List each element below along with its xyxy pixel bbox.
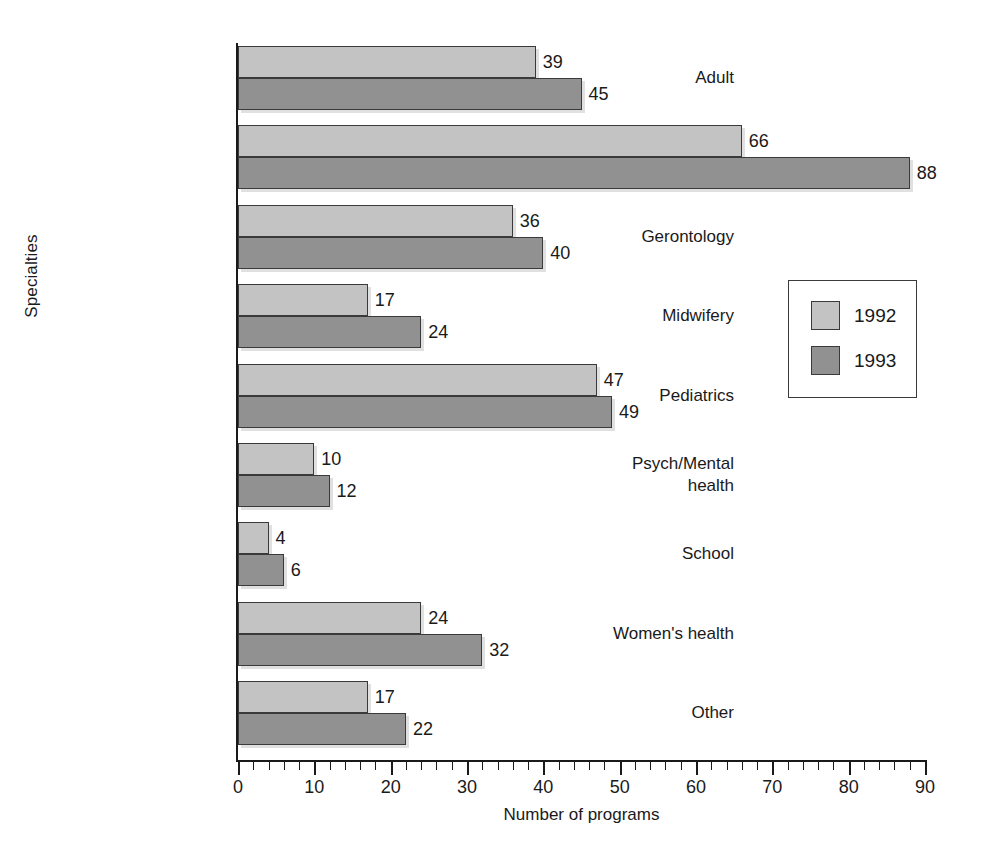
bar-value-label: 66 xyxy=(749,132,769,150)
bar-value-label: 39 xyxy=(543,53,563,71)
legend-entry-1992: 1992 xyxy=(811,301,896,330)
x-tick-minor xyxy=(452,762,453,770)
x-tick-major xyxy=(238,762,240,775)
bar-1992 xyxy=(238,364,597,396)
x-tick-minor xyxy=(482,762,483,770)
bar-group-1993: 32 xyxy=(238,634,938,666)
x-tick-major xyxy=(391,762,393,775)
bar-group-1993: 49 xyxy=(238,396,938,428)
bar-group-1992: 66 xyxy=(238,125,938,157)
x-tick-minor xyxy=(833,762,834,770)
bar-group-1993: 22 xyxy=(238,713,938,745)
bar-1993 xyxy=(238,157,910,189)
bar-value-label: 12 xyxy=(337,482,357,500)
x-tick-minor xyxy=(299,762,300,770)
x-tick-minor xyxy=(406,762,407,770)
x-tick-minor xyxy=(253,762,254,770)
bar-value-label: 47 xyxy=(604,371,624,389)
x-tick-major xyxy=(772,762,774,775)
x-tick-minor xyxy=(559,762,560,770)
x-tick-minor xyxy=(711,762,712,770)
x-tick-major xyxy=(925,762,927,775)
x-tick-minor xyxy=(360,762,361,770)
bar-group-1993: 40 xyxy=(238,237,938,269)
bar-value-label: 4 xyxy=(276,529,286,547)
bar-value-label: 10 xyxy=(321,450,341,468)
x-tick-label: 30 xyxy=(437,777,497,798)
x-tick-minor xyxy=(879,762,880,770)
bar-value-label: 40 xyxy=(550,244,570,262)
x-tick-minor xyxy=(269,762,270,770)
bar-1992 xyxy=(238,602,421,634)
x-tick-minor xyxy=(498,762,499,770)
x-tick-major xyxy=(620,762,622,775)
bar-group-1992: 39 xyxy=(238,46,938,78)
legend-entry-1993: 1993 xyxy=(811,346,896,375)
bar-value-label: 17 xyxy=(375,688,395,706)
bar-1992 xyxy=(238,443,314,475)
x-tick-major xyxy=(543,762,545,775)
bar-value-label: 6 xyxy=(291,561,301,579)
x-tick-minor xyxy=(635,762,636,770)
bar-group-1992: 24 xyxy=(238,602,938,634)
bar-1992 xyxy=(238,125,742,157)
bar-group-1992: 36 xyxy=(238,205,938,237)
x-tick-minor xyxy=(788,762,789,770)
legend-swatch-icon-1992 xyxy=(811,301,840,330)
x-tick-major xyxy=(467,762,469,775)
x-tick-label: 70 xyxy=(742,777,802,798)
x-tick-label: 10 xyxy=(284,777,344,798)
legend: 1992 1993 xyxy=(788,280,917,398)
x-axis-line xyxy=(236,760,927,762)
bar-1993 xyxy=(238,713,406,745)
x-tick-label: 60 xyxy=(666,777,726,798)
bar-1992 xyxy=(238,522,269,554)
x-tick-minor xyxy=(894,762,895,770)
x-tick-label: 20 xyxy=(361,777,421,798)
bar-value-label: 22 xyxy=(413,720,433,738)
x-tick-minor xyxy=(345,762,346,770)
bar-group-1993: 12 xyxy=(238,475,938,507)
x-tick-minor xyxy=(284,762,285,770)
y-axis-title: Specialties xyxy=(22,186,46,366)
x-tick-label: 0 xyxy=(208,777,268,798)
bar-1993 xyxy=(238,554,284,586)
legend-label-1993: 1993 xyxy=(854,350,896,372)
x-tick-minor xyxy=(864,762,865,770)
bar-value-label: 49 xyxy=(619,403,639,421)
x-tick-minor xyxy=(742,762,743,770)
bar-value-label: 88 xyxy=(917,164,937,182)
x-tick-minor xyxy=(910,762,911,770)
x-tick-minor xyxy=(421,762,422,770)
bar-value-label: 24 xyxy=(428,323,448,341)
bar-value-label: 36 xyxy=(520,212,540,230)
x-tick-minor xyxy=(727,762,728,770)
bar-value-label: 24 xyxy=(428,609,448,627)
x-tick-label: 80 xyxy=(819,777,879,798)
bar-1992 xyxy=(238,46,536,78)
x-tick-minor xyxy=(513,762,514,770)
x-tick-major xyxy=(314,762,316,775)
bar-group-1993: 45 xyxy=(238,78,938,110)
x-tick-major xyxy=(696,762,698,775)
bar-1993 xyxy=(238,475,330,507)
x-tick-minor xyxy=(650,762,651,770)
x-tick-label: 90 xyxy=(895,777,955,798)
x-tick-minor xyxy=(681,762,682,770)
bar-chart: Specialties Adult3945Family6688Gerontolo… xyxy=(0,0,986,857)
x-tick-minor xyxy=(330,762,331,770)
x-tick-label: 50 xyxy=(590,777,650,798)
bar-group-1992: 17 xyxy=(238,681,938,713)
bar-1992 xyxy=(238,681,368,713)
x-tick-minor xyxy=(803,762,804,770)
bar-value-label: 32 xyxy=(489,641,509,659)
x-tick-minor xyxy=(665,762,666,770)
bar-group-1992: 4 xyxy=(238,522,938,554)
bar-1992 xyxy=(238,205,513,237)
x-axis-title: Number of programs xyxy=(238,805,925,825)
x-tick-minor xyxy=(574,762,575,770)
bar-1993 xyxy=(238,634,482,666)
x-tick-minor xyxy=(375,762,376,770)
x-tick-label: 40 xyxy=(513,777,573,798)
x-tick-minor xyxy=(589,762,590,770)
